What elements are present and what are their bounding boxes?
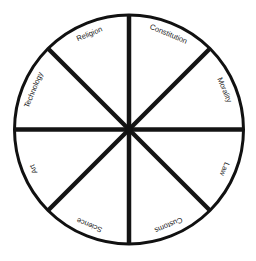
culture-wheel-diagram: Religion Constitution Morality Law Custo… xyxy=(0,0,256,261)
wheel-hub xyxy=(125,126,133,134)
